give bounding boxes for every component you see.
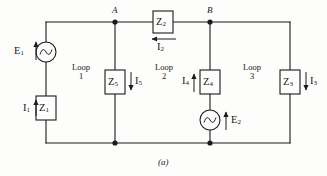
impedance-label-z5: Z5 — [108, 76, 118, 89]
node-dot-a — [112, 19, 117, 24]
node-label-b: B — [207, 6, 213, 15]
current-label-i4: I4 — [182, 75, 189, 88]
node-label-a: A — [112, 6, 118, 15]
source-label-e1: E1 — [14, 45, 24, 58]
impedance-label-z1: Z1 — [39, 102, 49, 115]
ac-source-e2 — [200, 110, 220, 130]
impedance-label-z4: Z4 — [203, 76, 213, 89]
loop-label-2: Loop 2 — [147, 63, 181, 81]
ac-source-e1 — [36, 42, 56, 62]
figure-caption: (a) — [158, 158, 169, 167]
junction-dots — [112, 19, 212, 145]
loop-label-1: Loop 1 — [64, 63, 98, 81]
source-label-e2: E2 — [231, 114, 241, 127]
impedance-label-z3: Z3 — [283, 76, 293, 89]
impedance-label-z2: Z2 — [156, 16, 166, 29]
current-label-i2: I2 — [157, 41, 164, 54]
node-dot-b — [207, 19, 212, 24]
node-dot-bottom-b — [207, 140, 212, 145]
current-label-i3: I3 — [310, 75, 317, 88]
loop-label-3: Loop 3 — [235, 63, 269, 81]
node-dot-bottom-a — [112, 140, 117, 145]
current-label-i5: I5 — [135, 75, 142, 88]
circuit-diagram-figure: A B Z1 Z2 Z5 Z4 Z3 E1 E2 I1 I2 I5 I4 I3 … — [0, 0, 327, 176]
current-label-i1: I1 — [23, 102, 30, 115]
